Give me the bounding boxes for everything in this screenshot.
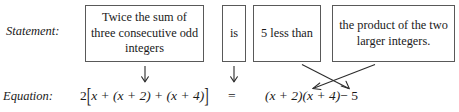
statement-box-is: is <box>222 5 246 62</box>
equation-left-side: 2[x + (x + 2) + (x + 4)] <box>80 89 209 103</box>
equation-right-side: (x + 2)(x + 4)− 5 <box>265 89 358 103</box>
equation-row-label: Equation: <box>3 90 53 103</box>
statement-row-label: Statement: <box>6 25 59 38</box>
equation-right-factor-one: (x + 2) <box>265 88 303 103</box>
equation-left-coefficient: 2 <box>80 88 87 103</box>
statement-box-twice-the-sum-text: Twice the sum of three consecutive odd i… <box>89 10 200 57</box>
down-arrow-icon-left <box>142 66 149 82</box>
equation-left-bracket-open: [ <box>87 85 92 106</box>
statement-box-is-text: is <box>230 26 238 42</box>
diagonal-arrow-icon-less-to-minus <box>302 65 349 89</box>
statement-box-product-of-two-larger-text: the product of the two larger integers. <box>336 18 451 49</box>
equation-right-minus-five: − 5 <box>340 88 358 103</box>
statement-box-twice-the-sum: Twice the sum of three consecutive odd i… <box>85 5 204 62</box>
diagonal-arrow-icon-product-to-factors <box>313 65 375 90</box>
equation-equals-sign: = <box>228 89 236 103</box>
down-arrow-icon-is <box>231 66 238 82</box>
statement-to-equation-diagram: Statement: Equation: Twice the sum of th… <box>0 0 459 112</box>
statement-box-five-less-than-text: 5 less than <box>261 26 313 42</box>
equation-left-bracket-close: ] <box>204 85 209 106</box>
statement-box-five-less-than: 5 less than <box>253 5 321 62</box>
statement-box-product-of-two-larger: the product of the two larger integers. <box>332 5 455 62</box>
equation-left-inner: x + (x + 2) + (x + 4) <box>91 88 204 103</box>
equation-right-factor-two: (x + 4) <box>303 88 341 103</box>
